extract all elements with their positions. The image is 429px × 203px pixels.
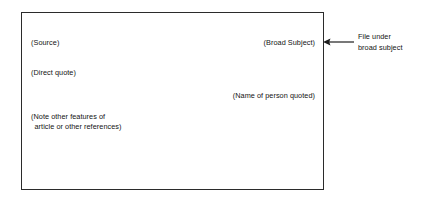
annotation-file-under-broad-subject: File underbroad subject <box>322 27 429 61</box>
annotation-caption-line-2: broad subject <box>358 43 428 54</box>
field-note-other-line-1: (Note other features of <box>31 112 105 121</box>
annotation-caption-line-1: File under <box>358 32 391 41</box>
field-note-other-line-2: article or other references) <box>31 122 121 132</box>
field-source: (Source) <box>31 38 59 48</box>
arrow-left-icon <box>322 36 355 48</box>
field-note-other-features: (Note other features ofarticle or other … <box>31 112 121 132</box>
field-direct-quote: (Direct quote) <box>31 68 76 78</box>
field-broad-subject: (Broad Subject) <box>264 38 315 48</box>
annotation-caption: File underbroad subject <box>358 32 428 53</box>
note-card: (Source) (Broad Subject) (Direct quote) … <box>21 12 324 190</box>
note-card-diagram: (Source) (Broad Subject) (Direct quote) … <box>0 0 429 203</box>
field-person-quoted: (Name of person quoted) <box>233 91 315 101</box>
